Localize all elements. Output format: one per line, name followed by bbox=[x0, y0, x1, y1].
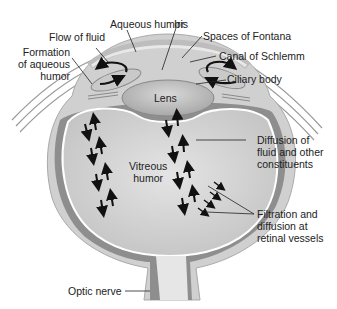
label-lens: Lens bbox=[154, 92, 177, 104]
label-spaces-of-fontana: Spaces of Fontana bbox=[203, 30, 291, 42]
label-vitreous: Vitreous humor bbox=[129, 160, 167, 184]
label-ciliary-body: Ciliary body bbox=[227, 73, 282, 85]
label-filtration: Filtration and diffusion at retinal vess… bbox=[257, 208, 324, 244]
vitreous-body bbox=[63, 108, 278, 256]
label-formation: Formation of aqueous humor bbox=[14, 46, 70, 82]
label-iris: Iris bbox=[174, 18, 188, 30]
label-canal-of-schlemm: Canal of Schlemm bbox=[219, 50, 305, 62]
label-optic-nerve: Optic nerve bbox=[68, 285, 122, 297]
label-diffusion: Diffusion of fluid and other constituent… bbox=[257, 134, 324, 170]
label-flow-of-fluid: Flow of fluid bbox=[49, 31, 105, 43]
optic-nerve-core bbox=[156, 256, 188, 300]
